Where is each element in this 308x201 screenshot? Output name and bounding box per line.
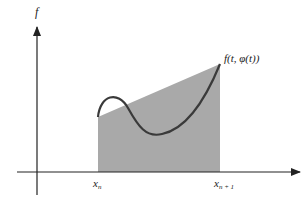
trapezoid-area: [98, 64, 220, 172]
x-n-plus-1-label: xn + 1: [213, 177, 234, 191]
x-n-subscript: n: [98, 183, 102, 191]
x-n-plus-1-subscript: n + 1: [219, 183, 234, 191]
x-n-label: xn: [92, 177, 102, 191]
curve-label: f(t, φ(t)): [224, 52, 260, 65]
y-axis-label: f: [35, 5, 40, 19]
diagram-canvas: f f(t, φ(t)) xn xn + 1: [0, 0, 308, 201]
